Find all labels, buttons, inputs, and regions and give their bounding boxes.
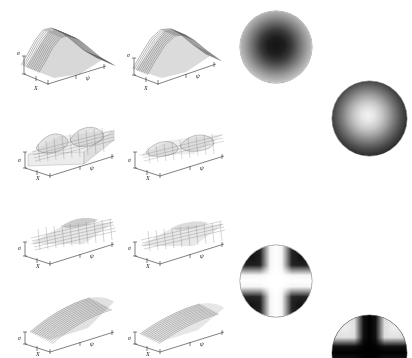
axis-label-sigma: σ (18, 157, 21, 163)
axis-label-x: X (145, 175, 150, 180)
figure-canvas: σ X ψ (0, 0, 412, 358)
panel-low-relief-surface-flat: σ X ψ (124, 188, 234, 268)
axis-label-x: X (33, 85, 38, 90)
panel-saddle-surface-low: σ X ψ (124, 100, 234, 180)
panel-radial-dark-center-disc (240, 11, 312, 83)
axis-label-x: X (143, 85, 148, 90)
disc-texture (240, 245, 312, 317)
panel-ridge-surface-shifted: σ X ψ (124, 12, 229, 90)
panel-saddle-surface-two-lobes: σ X ψ (14, 100, 124, 180)
axis-label-psi: ψ (200, 253, 204, 259)
axis-label-sigma: σ (128, 157, 131, 163)
axis-label-psi: ψ (90, 341, 94, 347)
axis-label-psi: ψ (200, 165, 204, 171)
panel-radial-bright-center-disc (332, 81, 407, 156)
axis-label-psi: ψ (196, 73, 200, 79)
axis-label-psi: ψ (90, 165, 94, 171)
panel-dark-cross-disc (332, 315, 407, 358)
axis-label-sigma: σ (17, 50, 20, 56)
axis-label-x: X (145, 263, 150, 268)
panel-tilted-plane-surface: σ X ψ (14, 276, 124, 356)
axis-label-x: X (35, 351, 40, 356)
panel-low-relief-surface-ripple: σ X ψ (14, 188, 124, 268)
disc-texture (332, 81, 407, 156)
axis-label-x: X (145, 351, 150, 356)
axis-label-sigma: σ (127, 52, 130, 58)
axis-label-sigma: σ (128, 245, 131, 251)
axis-label-x: X (35, 263, 40, 268)
axis-label-sigma: σ (18, 245, 21, 251)
axis-label-sigma: σ (18, 335, 21, 341)
axis-label-psi: ψ (90, 253, 94, 259)
axis-label-sigma: σ (128, 335, 131, 341)
panel-ridge-surface-positive: σ X ψ (14, 12, 119, 90)
disc-texture (332, 315, 407, 358)
panel-tilted-plane-surface-shallow: σ X ψ (124, 276, 234, 356)
axis-label-psi: ψ (200, 341, 204, 347)
disc-texture (240, 11, 312, 83)
panel-bright-cross-disc (240, 245, 312, 317)
axis-label-x: X (35, 175, 40, 180)
axis-label-psi: ψ (86, 75, 90, 81)
